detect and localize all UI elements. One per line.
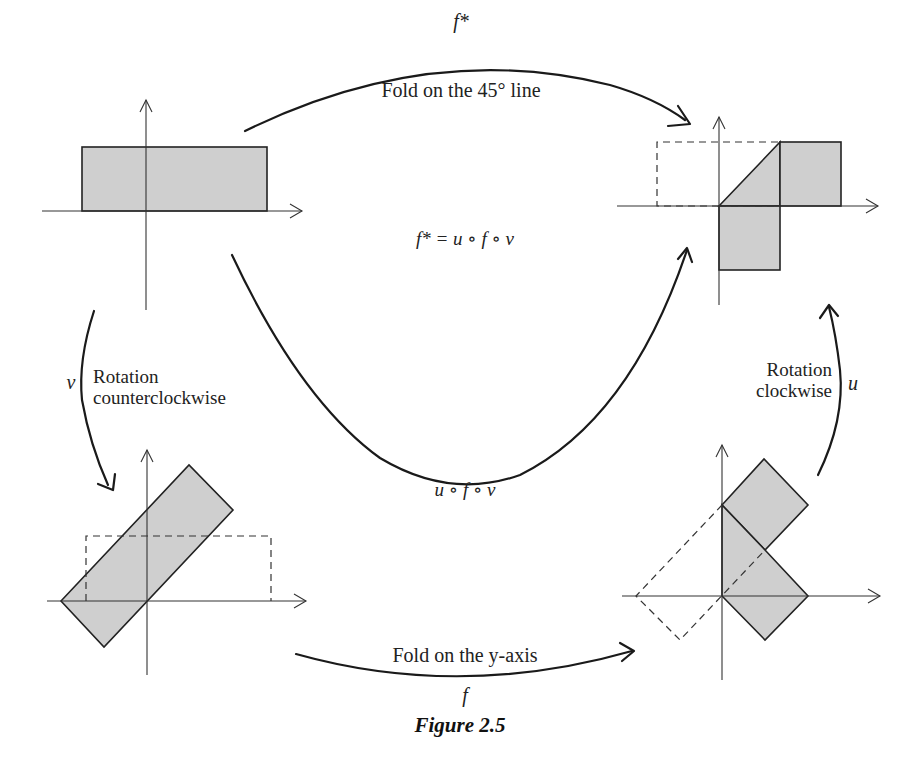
original-rectangle <box>82 147 267 211</box>
top-arrow-symbol: f* <box>453 10 469 33</box>
panel-bottom-left <box>47 450 306 675</box>
arrow-center-composite <box>232 248 692 484</box>
composite-arrow-symbol: u ∘ f ∘ v <box>435 479 496 500</box>
bottom-arrow-symbol: f <box>462 684 470 707</box>
bottom-arrow-label: Fold on the y-axis <box>393 644 538 667</box>
folded-triangle <box>719 142 780 206</box>
left-arrow-label-line2: counterclockwise <box>93 387 226 408</box>
figure-caption: Figure 2.5 <box>413 713 505 737</box>
top-arrow-label: Fold on the 45° line <box>381 79 540 101</box>
right-arrow-symbol: u <box>848 372 858 394</box>
right-arrow-label-line1: Rotation <box>767 359 833 380</box>
composition-equation: f* = u ∘ f ∘ v <box>416 228 515 249</box>
left-arrow-label-line1: Rotation <box>93 366 159 387</box>
folded-right-square <box>780 142 841 206</box>
left-arrow-symbol: v <box>67 371 76 393</box>
panel-bottom-right <box>622 445 880 680</box>
panel-top-left <box>42 100 302 310</box>
panel-top-right <box>617 117 878 305</box>
figure-2-5: f* Fold on the 45° line v Rotation count… <box>0 0 915 762</box>
folded-lower-rectangle <box>719 206 780 270</box>
right-arrow-label-line2: clockwise <box>756 380 832 401</box>
